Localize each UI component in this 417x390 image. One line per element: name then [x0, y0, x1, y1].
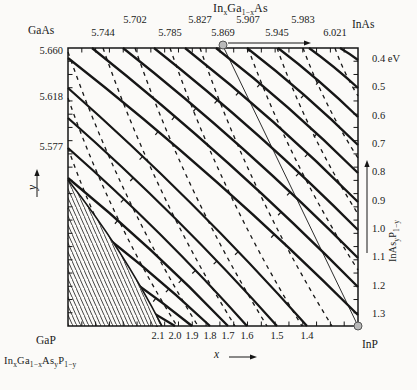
y-axis-letter: y	[27, 185, 39, 190]
contour-hachure-tick	[271, 234, 274, 237]
right-axis-label: 0.9	[372, 196, 385, 207]
bandgap-contour-line	[154, 48, 358, 230]
top-axis-label: 5.785	[158, 28, 182, 39]
contour-hachure-tick	[214, 261, 217, 264]
right-axis-label: 0.8	[372, 167, 385, 178]
contour-hachure-tick	[130, 178, 133, 181]
bandgap-contour-line	[92, 48, 358, 287]
top-axis-label: 5.744	[91, 28, 115, 39]
right-axis-label: 1.3	[372, 309, 385, 320]
right-axis-label: 1.2	[372, 281, 385, 292]
corner-label-gaas: GaAs	[28, 25, 54, 37]
y-axis-direction-arrow	[34, 169, 39, 197]
formula-inasp-right-axis: InAsyP1−y	[388, 220, 398, 262]
contour-hachure-tick	[235, 252, 238, 255]
right-axis-label: 1.0	[372, 224, 385, 235]
contour-hachure-tick	[236, 92, 239, 95]
bottom-axis-label: 1.6	[240, 331, 253, 342]
quaternary-bandgap-contour-figure: GaAs InAs GaP InP InxGa1−xAs InxGa1−xAsy…	[0, 0, 417, 390]
x-axis-direction-arrow	[229, 354, 257, 359]
left-axis-label: 5.618	[39, 92, 63, 103]
formula-ingaasp-title: InxGa1−xAsyP1−y	[4, 356, 77, 367]
corner-label-inp: InP	[362, 339, 378, 351]
contour-hachure-tick	[287, 192, 290, 195]
right-axis-label: 0.7	[372, 139, 385, 150]
right-axis-label: 0.6	[372, 111, 385, 122]
contour-hachure-tick	[166, 289, 169, 292]
top-axis-label: 5.702	[123, 15, 147, 26]
right-axis-label: 0.5	[372, 82, 385, 93]
contour-hachure-tick	[278, 212, 281, 215]
contour-hachure-tick	[140, 156, 143, 159]
contour-hachure-tick	[115, 220, 118, 223]
top-axis-direction-arrow	[228, 40, 311, 45]
corner-label-inas: InAs	[352, 19, 374, 31]
contour-hachure-tick	[155, 131, 158, 134]
bottom-axis-label: 1.8	[203, 331, 216, 342]
bandgap-contour-line	[340, 48, 358, 60]
contour-hachure-tick	[305, 154, 308, 157]
lattice-contour-line-dashed	[248, 48, 358, 270]
top-axis-label: 5.983	[291, 15, 315, 26]
bottom-axis-label: 2.0	[168, 331, 181, 342]
lattice-contour-line-dashed	[135, 48, 267, 326]
hatched-region	[68, 180, 162, 326]
top-axis-label: 5.827	[188, 15, 212, 26]
bottom-axis-label: 1.9	[185, 331, 198, 342]
contour-hachure-tick	[192, 270, 195, 273]
contour-hachure-tick	[257, 84, 260, 87]
bottom-axis-label: 2.1	[151, 331, 164, 342]
top-axis-label: 5.945	[265, 28, 289, 39]
left-axis-label: 5.577	[39, 142, 63, 153]
top-axis-label: 6.021	[323, 28, 347, 39]
right-axis-label: 1.1	[372, 252, 385, 263]
lattice-match-marker-dot	[219, 41, 227, 49]
inp-lattice-matched-line	[223, 46, 358, 326]
contour-hachure-tick	[172, 116, 175, 119]
bottom-axis-label: 1.4	[300, 331, 313, 342]
bottom-axis-label: 1.5	[270, 331, 283, 342]
right-axis-direction-arrow	[364, 160, 369, 253]
formula-ingaas-title: InxGa1−xAs	[213, 2, 268, 14]
x-axis-letter: x	[214, 349, 219, 361]
corner-label-gap: GaP	[36, 335, 56, 347]
left-axis-label: 5.660	[39, 46, 63, 57]
contour-hachure-tick	[193, 108, 196, 111]
top-axis-label: 5.869	[211, 28, 235, 39]
contour-hachure-tick	[301, 95, 304, 98]
right-axis-label: 0.4 eV	[372, 54, 400, 65]
bandgap-contour-line	[216, 48, 358, 173]
bottom-axis-label: 1.7	[221, 331, 234, 342]
lattice-match-marker-dot	[354, 322, 362, 330]
contour-hachure-tick	[296, 173, 299, 176]
bandgap-contour-line	[185, 48, 358, 202]
contour-hachure-tick	[179, 280, 182, 283]
contour-hachure-tick	[215, 100, 218, 103]
top-axis-label: 5.907	[236, 15, 260, 26]
contour-hachure-tick	[121, 199, 124, 202]
contour-hachure-tick	[153, 298, 156, 302]
